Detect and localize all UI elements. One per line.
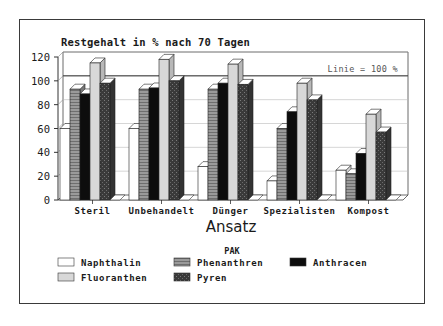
legend-label: Anthracen: [313, 258, 367, 268]
legend-item: Phenanthren: [174, 258, 263, 268]
legend-swatch: [174, 258, 190, 266]
y-axis-tick-label: 80: [37, 99, 50, 111]
legend: NaphthalinPhenanthrenAnthracenFluoranthe…: [58, 258, 367, 283]
legend-item: Anthracen: [290, 258, 367, 268]
chart-title: Restgehalt in % nach 70 Tagen: [61, 36, 250, 48]
legend-swatch: [58, 258, 74, 266]
legend-swatch: [58, 273, 74, 281]
y-axis-tick-label: 40: [37, 146, 50, 158]
bar: [100, 78, 115, 200]
legend-item: Naphthalin: [58, 258, 141, 268]
y-axis-tick-label: 100: [31, 75, 50, 87]
legend-item: Pyren: [174, 273, 227, 283]
legend-label: Naphthalin: [81, 258, 141, 268]
legend-label: Fluoranthen: [81, 273, 147, 283]
bar: [376, 127, 391, 200]
x-axis-tick-label: Unbehandelt: [128, 206, 194, 216]
x-axis-tick-label: Dünger: [212, 206, 248, 216]
bar: [169, 76, 184, 200]
legend-swatch: [290, 258, 306, 266]
legend-swatch: [174, 273, 190, 281]
x-axis-tick-label: Steril: [74, 206, 110, 216]
legend-label: Pyren: [197, 273, 227, 283]
reference-line-label: Linie = 100 %: [328, 64, 398, 74]
y-axis-tick-label: 20: [37, 170, 50, 182]
legend-item: Fluoranthen: [58, 273, 147, 283]
bar: [238, 79, 253, 200]
legend-label: Phenanthren: [197, 258, 263, 268]
y-axis-tick-label: 0: [44, 194, 50, 206]
bar: [307, 95, 322, 200]
bar-chart: Restgehalt in % nach 70 Tagen 0204060801…: [0, 0, 443, 326]
x-axis-tick-label: Kompost: [347, 206, 389, 216]
x-axis-tick-label: Spezialisten: [263, 206, 335, 216]
legend-title: PAK: [224, 246, 240, 256]
y-axis-tick-label: 120: [31, 51, 50, 63]
x-axis-label: Ansatz: [206, 218, 257, 236]
y-axis-tick-label: 60: [37, 123, 50, 135]
x-axis-tick-labels: SterilUnbehandeltDüngerSpezialistenKompo…: [74, 206, 389, 216]
